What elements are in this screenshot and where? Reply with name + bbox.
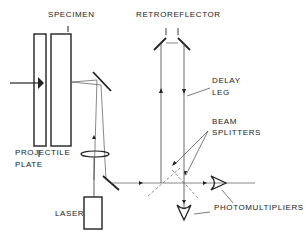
label-beam-splitters-line2: SPLITTERS xyxy=(212,128,261,138)
label-photomultipliers: PHOTOMULTIPLIERS xyxy=(214,203,304,213)
label-delay-leg-line1: DELAY xyxy=(212,76,241,86)
projectile-plate xyxy=(34,34,46,146)
label-delay-leg-line2: LEG xyxy=(212,88,230,98)
optical-setup-diagram: SPECIMEN RETROREFLECTOR DELAY LEG BEAM S… xyxy=(0,0,306,232)
turning-mirror xyxy=(93,72,111,91)
label-retroreflector: RETROREFLECTOR xyxy=(136,10,221,20)
label-projectile-plate-line1: PROJECTILE xyxy=(15,148,70,158)
label-beam-splitters-line1: BEAM xyxy=(212,117,237,127)
projectile-arrow xyxy=(10,77,44,89)
photomultiplier-bottom xyxy=(177,200,191,220)
diagram-lines xyxy=(0,0,306,232)
retroreflector xyxy=(154,38,190,50)
specimen-plate xyxy=(51,34,71,146)
label-projectile-plate-line2: PLATE xyxy=(15,160,43,170)
laser-box xyxy=(84,197,102,229)
beam-splitter-1 xyxy=(148,168,180,196)
label-specimen: SPECIMEN xyxy=(48,10,95,20)
label-laser: LASER xyxy=(55,209,84,219)
